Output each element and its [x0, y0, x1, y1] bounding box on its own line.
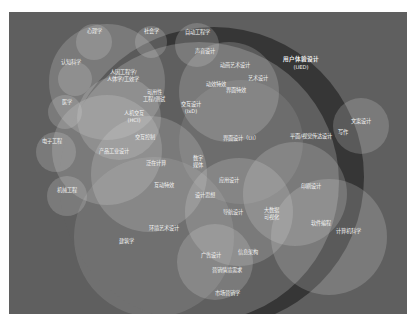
label-writing: 写作 [338, 128, 348, 136]
label-copywriting: 文案设计 [351, 117, 371, 125]
label-interactive-effects: 互动特效 [154, 181, 175, 189]
label-ixd-2: (IxD) [185, 108, 198, 114]
label-automation: 自动工程学 [185, 28, 210, 36]
label-ad-design: 广告设计 [201, 251, 221, 259]
venn-diagram-panel: 心理学 社会学 自动工程学 声音设计 认知科学 医学 电子工程 机械工程 人因工… [9, 12, 407, 314]
label-digital-media-1: 数字 [193, 154, 203, 162]
label-market: 市场营销学 [215, 289, 240, 297]
bubble-copywriting [333, 98, 389, 154]
label-graphic-visual: 平面/视觉传达设计 [290, 132, 332, 140]
label-info-arch: 信息架构 [238, 248, 258, 256]
label-sociology: 社会学 [144, 27, 159, 35]
bubble-mechanical [47, 176, 87, 216]
bubble-computer-science [271, 179, 387, 295]
label-env-art: 环境艺术设计 [149, 224, 179, 232]
label-ui: 界面设计（UI） [223, 134, 258, 142]
label-architecture: 建筑学 [119, 237, 134, 245]
label-ergonomics-1: 人因工程学/ [110, 68, 137, 76]
label-digital-media-2: 媒体 [193, 161, 204, 169]
label-art-design: 艺术设计 [248, 74, 268, 82]
label-ergonomics-2: 人体学/工效学 [107, 75, 139, 83]
label-cognitive: 认知科学 [61, 58, 81, 66]
label-interaction-control: 交互控制 [135, 133, 155, 141]
label-mechanical: 机械工程 [57, 186, 77, 194]
label-electronics: 电子工程 [42, 137, 62, 145]
venn-diagram: 心理学 社会学 自动工程学 声音设计 认知科学 医学 电子工程 机械工程 人因工… [9, 12, 407, 314]
label-big-data-1: 大数据 [264, 206, 279, 214]
label-design-thinking: 设计思想 [195, 191, 215, 199]
label-print: 印刷设计 [301, 182, 321, 190]
label-medicine: 医学 [62, 98, 72, 105]
label-motion-art: 动画艺术设计 [220, 61, 250, 69]
label-usability-2: 工程/测试 [143, 95, 166, 103]
label-motion-effects: 动效特效 [206, 80, 227, 88]
label-navigation: 导航设计 [223, 208, 243, 216]
label-computer-science: 计算机科学 [336, 227, 361, 235]
label-usability-1: 可用性 [147, 88, 162, 96]
label-software-dev: 软件编程 [311, 219, 331, 227]
label-ubiquitous: 泛在计算 [146, 159, 166, 167]
label-app-design: 应用设计 [219, 176, 239, 184]
label-ued-1: 用户体验设计 [282, 55, 319, 63]
bubble-market [177, 224, 253, 300]
label-marketing-req: 营销情境需求 [212, 266, 243, 274]
label-hci-2: (HCI) [127, 117, 140, 123]
label-ued-2: (UED) [293, 64, 308, 70]
label-psychology: 心理学 [87, 27, 102, 34]
label-big-data-2: 可视化 [264, 213, 279, 221]
label-ixd-1: 交互设计 [181, 100, 201, 108]
label-industrial: 产品工业设计 [99, 147, 129, 155]
label-sound-design: 声音设计 [195, 47, 215, 55]
label-interface-effects: 界面特效 [226, 86, 247, 94]
label-hci-1: 人机交互 [124, 109, 144, 117]
bubble-cognitive [58, 62, 92, 96]
